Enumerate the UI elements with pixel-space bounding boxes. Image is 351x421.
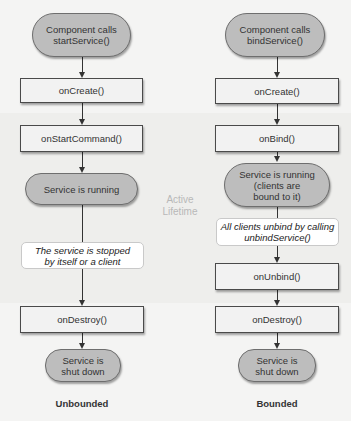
stop-note: The service is stopped by itself or a cl…	[21, 242, 144, 269]
connector	[277, 104, 278, 119]
on-destroy-node: onDestroy()	[20, 306, 144, 333]
bind-service-node: Component calls bindService()	[225, 13, 325, 57]
node-text: onStartCommand()	[41, 133, 122, 144]
connector	[82, 333, 83, 343]
node-text: Service is	[61, 355, 104, 366]
on-destroy-node: onDestroy()	[215, 306, 339, 333]
bounded-caption: Bounded	[227, 398, 327, 409]
on-start-command-node: onStartCommand()	[20, 125, 143, 152]
label-text: Lifetime	[150, 206, 210, 218]
node-text: bindService()	[240, 35, 311, 46]
node-text: onDestroy()	[57, 314, 107, 325]
connector	[277, 290, 278, 300]
on-bind-node: onBind()	[215, 125, 339, 152]
service-running-node: Service is running	[25, 173, 138, 205]
shut-down-node: Service is shut down	[45, 349, 121, 382]
node-text: Component calls	[46, 24, 117, 35]
node-text: shut down	[255, 366, 298, 377]
on-unbind-node: onUnbind()	[215, 263, 339, 290]
node-text: Component calls	[240, 24, 311, 35]
node-text: startService()	[46, 35, 117, 46]
unbind-note: All clients unbind by calling unbindServ…	[216, 218, 339, 246]
note-text: All clients unbind by calling	[221, 221, 335, 232]
connector	[82, 102, 83, 119]
node-text: Service is running	[239, 169, 315, 180]
unbounded-caption: Unbounded	[32, 398, 132, 409]
node-text: (clients are	[239, 180, 315, 191]
note-text: The service is stopped	[35, 245, 130, 256]
on-create-node: onCreate()	[215, 78, 339, 104]
node-text: onDestroy()	[252, 314, 302, 325]
on-create-node: onCreate()	[20, 78, 143, 103]
connector	[82, 205, 83, 242]
label-text: Active	[150, 194, 210, 206]
connector	[277, 333, 278, 343]
connector	[82, 57, 83, 72]
note-text: by itself or a client	[35, 256, 130, 267]
node-text: bound to it)	[239, 191, 315, 202]
connector	[277, 57, 278, 72]
node-text: onUnbind()	[254, 271, 301, 282]
node-text: shut down	[61, 366, 104, 377]
start-service-node: Component calls startService()	[32, 13, 131, 57]
connector	[277, 246, 278, 257]
arrow-down-icon	[274, 156, 280, 162]
note-text: unbindService()	[221, 232, 335, 243]
connector	[82, 152, 83, 167]
node-text: Service is	[255, 355, 298, 366]
service-running-bound-node: Service is running (clients are bound to…	[224, 163, 330, 207]
node-text: onCreate()	[254, 86, 299, 97]
node-text: onCreate()	[59, 85, 104, 96]
connector	[82, 269, 83, 300]
node-text: Service is running	[44, 184, 120, 195]
node-text: onBind()	[259, 133, 295, 144]
active-lifetime-label: Active Lifetime	[150, 194, 210, 218]
shut-down-node: Service is shut down	[238, 349, 316, 382]
connector	[277, 207, 278, 218]
